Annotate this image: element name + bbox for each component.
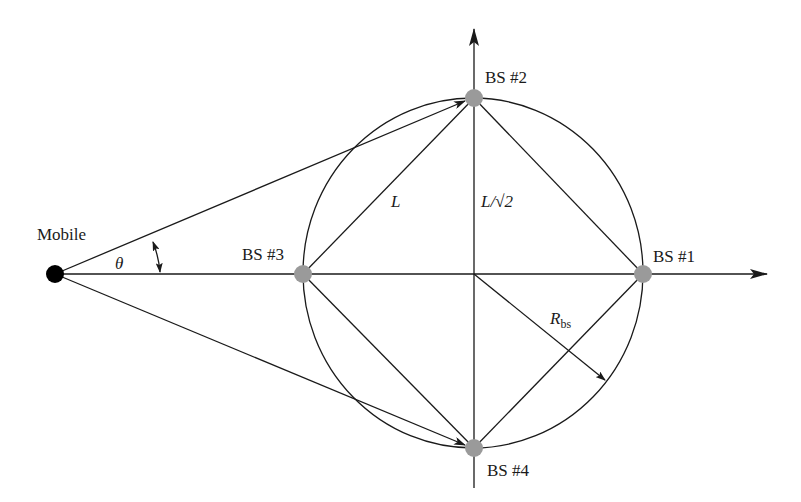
bs3-label: BS #3 xyxy=(242,246,284,263)
coverage-circle xyxy=(303,98,643,448)
mobile-label: Mobile xyxy=(37,226,86,243)
radius-subscript: bs xyxy=(560,317,571,331)
bs4-label: BS #4 xyxy=(487,462,529,479)
edge-bs3-bs2 xyxy=(303,98,474,274)
radius-symbol: R xyxy=(550,309,560,328)
base-station-2-node xyxy=(465,89,483,107)
base-station-4-node xyxy=(465,439,483,457)
edge-bs4-bs3 xyxy=(303,274,474,448)
mobile-to-bs4-arrow xyxy=(55,274,465,445)
side-length-label: L xyxy=(391,193,400,210)
edge-bs1-bs4 xyxy=(474,274,643,448)
base-station-3-node xyxy=(294,265,312,283)
base-station-1-node xyxy=(634,265,652,283)
theta-angle-arc xyxy=(153,242,160,272)
mobile-node xyxy=(46,265,64,283)
half-diagonal-label: L/√2 xyxy=(481,193,513,210)
edge-bs2-bs1 xyxy=(474,98,643,274)
radius-arrow xyxy=(474,274,605,380)
bs1-label: BS #1 xyxy=(653,248,695,265)
theta-label: θ xyxy=(115,255,123,272)
bs2-label: BS #2 xyxy=(485,69,527,86)
radius-label: Rbs xyxy=(550,310,571,327)
